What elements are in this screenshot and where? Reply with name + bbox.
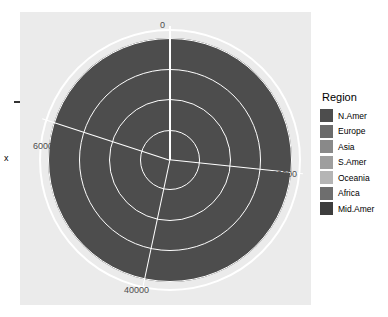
- legend-item-label: S.Amer: [338, 158, 366, 167]
- legend-item[interactable]: S.Amer: [320, 155, 386, 171]
- legend: Region N.AmerEuropeAsiaS.AmerOceaniaAfri…: [320, 92, 386, 217]
- legend-item[interactable]: Asia: [320, 139, 386, 155]
- legend-key-swatch: [320, 125, 333, 138]
- legend-key-swatch: [320, 171, 333, 184]
- legend-item[interactable]: Oceania: [320, 170, 386, 186]
- legend-title: Region: [322, 92, 386, 103]
- x-axis-title: x: [4, 154, 9, 163]
- legend-key-swatch: [320, 202, 333, 215]
- legend-item-label: N.Amer: [338, 112, 367, 121]
- legend-items: N.AmerEuropeAsiaS.AmerOceaniaAfricaMid.A…: [320, 108, 386, 217]
- legend-item-label: Asia: [338, 143, 355, 152]
- legend-item-label: Mid.Amer: [338, 205, 374, 214]
- axis-tick-bottom: 40000: [124, 286, 149, 295]
- axis-tick-mark: [14, 101, 20, 103]
- legend-item-label: Europe: [338, 127, 365, 136]
- legend-key-swatch: [320, 109, 333, 122]
- legend-item[interactable]: Mid.Amer: [320, 201, 386, 217]
- legend-item-label: Oceania: [338, 174, 370, 183]
- legend-key-swatch: [320, 140, 333, 153]
- axis-tick-top: 0: [160, 21, 165, 30]
- plot-panel-inner: [20, 12, 311, 305]
- axis-tick-left: 60000: [33, 142, 58, 151]
- legend-item[interactable]: N.Amer: [320, 108, 386, 124]
- axis-tick-right: 20000: [272, 170, 297, 179]
- legend-item-label: Africa: [338, 189, 360, 198]
- legend-key-swatch: [320, 156, 333, 169]
- plot-panel: [20, 12, 311, 305]
- legend-key-swatch: [320, 187, 333, 200]
- chart-root: 0 20000 40000 60000 x Region N.AmerEurop…: [0, 0, 388, 317]
- legend-item[interactable]: Europe: [320, 124, 386, 140]
- legend-item[interactable]: Africa: [320, 186, 386, 202]
- grid-spoke: [169, 26, 170, 160]
